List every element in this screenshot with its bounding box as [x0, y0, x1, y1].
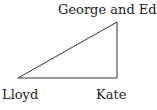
- label-kate: Kate: [96, 88, 126, 102]
- label-lloyd: Lloyd: [2, 88, 38, 102]
- label-george-and-edna: George and Edna: [58, 3, 157, 17]
- triangle-diagram: George and Edna Lloyd Kate: [0, 0, 157, 110]
